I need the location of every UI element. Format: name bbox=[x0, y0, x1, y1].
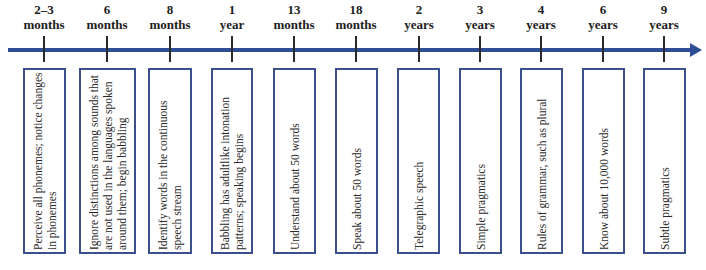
tick-mark bbox=[540, 36, 542, 62]
age-value: 1 bbox=[197, 2, 267, 17]
age-label: 1 year bbox=[197, 2, 267, 32]
milestone-description: Subtle pragmatics bbox=[658, 72, 672, 250]
age-label: 13 months bbox=[259, 2, 329, 32]
tick-mark bbox=[479, 36, 481, 62]
age-unit: years bbox=[384, 17, 454, 32]
milestone-box: Speak about 50 words bbox=[335, 68, 378, 254]
age-unit: years bbox=[629, 17, 699, 32]
milestone-description: Babbling has adultlike intonation patter… bbox=[218, 72, 246, 250]
milestone-box: Subtle pragmatics bbox=[643, 68, 686, 254]
milestone-box: Telegraphic speech bbox=[397, 68, 440, 254]
milestone-description: Know about 10,000 words bbox=[597, 72, 611, 250]
age-value: 9 bbox=[629, 2, 699, 17]
milestone-description: Speak about 50 words bbox=[350, 72, 364, 250]
tick-mark bbox=[169, 36, 171, 62]
milestone-box: Simple pragmatics bbox=[459, 68, 502, 254]
age-label: 6 years bbox=[568, 2, 638, 32]
age-value: 4 bbox=[506, 2, 576, 17]
age-value: 2 bbox=[384, 2, 454, 17]
age-value: 2–3 bbox=[9, 2, 79, 17]
arrowhead-icon bbox=[690, 43, 702, 57]
tick-mark bbox=[355, 36, 357, 62]
age-value: 6 bbox=[568, 2, 638, 17]
tick-mark bbox=[231, 36, 233, 62]
age-unit: months bbox=[9, 17, 79, 32]
age-unit: months bbox=[259, 17, 329, 32]
age-label: 9 years bbox=[629, 2, 699, 32]
age-value: 13 bbox=[259, 2, 329, 17]
milestone-description: Simple pragmatics bbox=[474, 72, 488, 250]
milestone-description: Ignore distinctions among sounds that ar… bbox=[87, 72, 129, 250]
age-label: 18 months bbox=[321, 2, 391, 32]
milestone-box: Perceive all phonemes; notice changes in… bbox=[23, 68, 66, 254]
age-unit: years bbox=[506, 17, 576, 32]
tick-mark bbox=[106, 36, 108, 62]
milestone-box: Ignore distinctions among sounds that ar… bbox=[79, 68, 136, 254]
tick-mark bbox=[293, 36, 295, 62]
age-label: 2 years bbox=[384, 2, 454, 32]
milestone-description: Perceive all phonemes; notice changes in… bbox=[31, 72, 59, 250]
age-value: 3 bbox=[445, 2, 515, 17]
tick-mark bbox=[43, 36, 45, 62]
age-unit: months bbox=[135, 17, 205, 32]
age-unit: years bbox=[445, 17, 515, 32]
timeline-axis bbox=[8, 48, 692, 52]
tick-mark bbox=[418, 36, 420, 62]
milestone-box: Rules of grammar, such as plural bbox=[520, 68, 563, 254]
milestone-description: Understand about 50 words bbox=[288, 72, 302, 250]
tick-mark bbox=[602, 36, 604, 62]
tick-mark bbox=[663, 36, 665, 62]
milestone-box: Understand about 50 words bbox=[273, 68, 316, 254]
milestone-description: Identify words in the continuous speech … bbox=[156, 72, 184, 250]
age-value: 18 bbox=[321, 2, 391, 17]
milestone-description: Telegraphic speech bbox=[412, 72, 426, 250]
milestone-box: Identify words in the continuous speech … bbox=[148, 68, 192, 254]
age-label: 3 years bbox=[445, 2, 515, 32]
age-label: 2–3 months bbox=[9, 2, 79, 32]
age-unit: months bbox=[321, 17, 391, 32]
age-unit: year bbox=[197, 17, 267, 32]
age-label: 8 months bbox=[135, 2, 205, 32]
milestone-box: Know about 10,000 words bbox=[582, 68, 625, 254]
milestone-box: Babbling has adultlike intonation patter… bbox=[211, 68, 253, 254]
age-unit: months bbox=[72, 17, 142, 32]
age-label: 4 years bbox=[506, 2, 576, 32]
milestone-description: Rules of grammar, such as plural bbox=[535, 72, 549, 250]
age-value: 6 bbox=[72, 2, 142, 17]
age-label: 6 months bbox=[72, 2, 142, 32]
age-unit: years bbox=[568, 17, 638, 32]
age-value: 8 bbox=[135, 2, 205, 17]
